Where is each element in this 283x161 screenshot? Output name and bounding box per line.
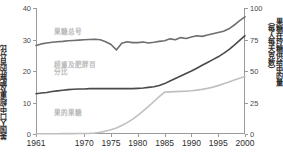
series-line-fructose: [36, 77, 245, 134]
tick-mark: [245, 103, 248, 104]
tick-label: 1995: [209, 138, 228, 148]
tick-mark: [245, 40, 248, 41]
tick-label: 1990: [182, 138, 201, 148]
tick-mark: [245, 134, 246, 137]
plot-area: 010203040 0255075100 1961197019751980198…: [36, 8, 245, 134]
tick-mark: [245, 8, 248, 9]
tick-label: 1975: [102, 138, 121, 148]
tick-mark: [111, 134, 112, 137]
tick-mark: [245, 71, 248, 72]
tick-mark: [165, 134, 166, 137]
tick-label: 50: [250, 67, 258, 76]
y-axis-right-title: 果糖在玲糖供给中的量 （每人每天克数）: [267, 18, 283, 136]
series-label-total-sugar: 果糖总号: [54, 28, 82, 35]
tick-mark: [138, 134, 139, 137]
tick-mark: [218, 134, 219, 137]
tick-label: 1985: [155, 138, 174, 148]
tick-mark: [84, 134, 85, 137]
series-label-fructose: 果的果糖: [54, 109, 82, 116]
tick-label: 20: [23, 67, 31, 76]
tick-label: 25: [250, 98, 258, 107]
tick-label: 30: [23, 35, 31, 44]
y-axis-right-title-line1: 果糖在玲糖供给中的量: [275, 18, 283, 136]
tick-label: 1970: [75, 138, 94, 148]
tick-mark: [191, 134, 192, 137]
tick-label: 40: [23, 4, 31, 13]
y-axis-left-title: 美国人口中超重及肥胖的百分比: [0, 6, 8, 140]
tick-label: 2000: [236, 138, 255, 148]
tick-label: 1980: [128, 138, 147, 148]
tick-label: 100: [250, 4, 263, 13]
tick-label: 1961: [27, 138, 46, 148]
series-label-obesity: 超重及肥胖百 分比: [54, 61, 95, 76]
chart-figure: 美国人口中超重及肥胖的百分比 果糖在玲糖供给中的量 （每人每天克数） 01020…: [0, 0, 283, 161]
y-axis-right-title-line2: （每人每天克数）: [267, 18, 275, 136]
tick-label: 75: [250, 35, 258, 44]
tick-label: 10: [23, 98, 31, 107]
